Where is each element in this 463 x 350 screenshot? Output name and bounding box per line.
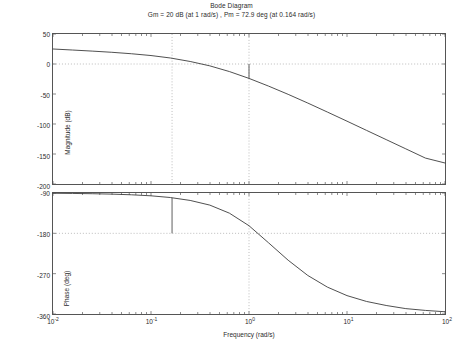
phase-plot-area (53, 193, 445, 314)
magnitude-tick-label: 0 (20, 61, 50, 68)
magnitude-tick-label: 50 (20, 31, 50, 38)
magnitude-plot-area (53, 34, 445, 184)
figure-title: Bode Diagram (0, 2, 463, 10)
x-tick-label: 100 (245, 318, 255, 325)
phase-axes: Phase (deg) -90-180-270-36010-210-110010… (52, 192, 446, 315)
phase-tick-label: -90 (20, 190, 50, 197)
magnitude-axes: Magnitude (dB) 500-50-100-150-200 (52, 33, 446, 185)
magnitude-tick-label: -50 (20, 91, 50, 98)
magnitude-tick-label: -200 (20, 183, 50, 190)
magnitude-tick-label: -150 (20, 152, 50, 159)
x-tick-label: 102 (442, 318, 452, 325)
figure-subtitle: Gm = 20 dB (at 1 rad/s) , Pm = 72.9 deg … (0, 10, 463, 19)
bode-diagram-figure: Bode Diagram Gm = 20 dB (at 1 rad/s) , P… (0, 0, 463, 350)
figure-title-block: Bode Diagram Gm = 20 dB (at 1 rad/s) , P… (0, 2, 463, 19)
phase-tick-label: -360 (20, 313, 50, 320)
phase-axis-label: Phase (deg) (63, 254, 70, 324)
x-tick-label: 10-2 (47, 318, 59, 325)
x-tick-label: 10-1 (146, 318, 158, 325)
phase-tick-label: -180 (20, 231, 50, 238)
x-tick-label: 101 (343, 318, 353, 325)
magnitude-axis-label: Magnitude (dB) (64, 93, 71, 173)
magnitude-tick-label: -100 (20, 122, 50, 129)
phase-tick-label: -270 (20, 272, 50, 279)
frequency-axis-label: Frequency (rad/s) (52, 331, 446, 338)
